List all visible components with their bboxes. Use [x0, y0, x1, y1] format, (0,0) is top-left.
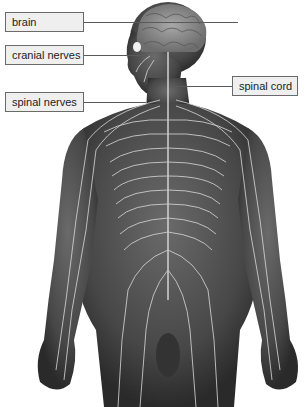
leader-spinal-cord — [169, 86, 232, 87]
label-spinal-cord: spinal cord — [232, 76, 298, 96]
label-text: cranial nerves — [12, 49, 80, 61]
leader-brain — [84, 22, 238, 23]
label-spinal-nerves: spinal nerves — [5, 92, 84, 112]
leader-spinal-nerves — [84, 102, 146, 103]
label-text: brain — [12, 16, 36, 28]
leader-cranial-nerves — [84, 55, 148, 56]
pelvis-shading — [156, 333, 180, 377]
label-text: spinal nerves — [12, 96, 77, 108]
eye — [133, 42, 141, 52]
label-brain: brain — [5, 12, 84, 32]
label-cranial-nerves: cranial nerves — [5, 45, 84, 65]
label-text: spinal cord — [239, 80, 292, 92]
